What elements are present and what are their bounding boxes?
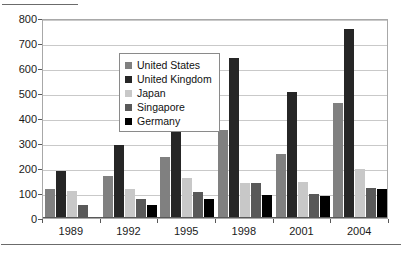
bar	[45, 189, 55, 218]
y-axis-tick-label: 600	[3, 64, 37, 75]
gridline	[43, 20, 387, 21]
bar	[320, 196, 330, 218]
legend-swatch-icon	[125, 62, 132, 69]
x-axis-tick-label: 1989	[48, 226, 94, 237]
bar	[240, 183, 250, 218]
legend-item-label: Germany	[137, 116, 180, 127]
bar	[298, 182, 308, 219]
chart-legend: United StatesUnited KingdomJapanSingapor…	[119, 53, 220, 132]
x-axis-tick-label: 1995	[163, 226, 209, 237]
x-axis-tick-label: 2001	[279, 226, 325, 237]
legend-swatch-icon	[125, 90, 132, 97]
x-axis-tick-label: 1992	[106, 226, 152, 237]
plot-area: United StatesUnited KingdomJapanSingapor…	[42, 19, 388, 219]
bar	[262, 195, 272, 218]
y-axis-tick-label: 500	[3, 89, 37, 100]
legend-item-label: Singapore	[137, 102, 185, 113]
bar	[125, 189, 135, 219]
bar	[147, 205, 157, 219]
bar	[182, 178, 192, 218]
legend-item: Singapore	[125, 100, 215, 114]
x-axis-tick-mark	[388, 219, 389, 223]
chart-figure: United StatesUnited KingdomJapanSingapor…	[0, 0, 403, 255]
legend-swatch-icon	[125, 104, 132, 111]
gridline	[43, 45, 387, 46]
bar	[218, 130, 228, 218]
bar	[366, 188, 376, 218]
y-axis-tick-mark	[38, 194, 42, 195]
bar	[204, 199, 214, 218]
y-axis-tick-label: 200	[3, 164, 37, 175]
bar	[251, 183, 261, 218]
legend-item-label: United States	[137, 60, 200, 71]
bar	[160, 157, 170, 218]
y-axis-tick-mark	[38, 94, 42, 95]
bar	[229, 58, 239, 218]
bar	[136, 199, 146, 218]
bar	[333, 103, 343, 218]
y-axis-tick-mark	[38, 169, 42, 170]
y-axis-tick-mark	[38, 19, 42, 20]
legend-swatch-icon	[125, 118, 132, 125]
bar	[309, 194, 319, 218]
y-axis-tick-mark	[38, 69, 42, 70]
bar	[103, 176, 113, 218]
y-axis-tick-label: 300	[3, 139, 37, 150]
legend-item-label: Japan	[137, 88, 166, 99]
top-divider-rule	[2, 4, 78, 5]
x-axis-tick-mark	[330, 219, 331, 223]
y-axis-tick-label: 100	[3, 189, 37, 200]
y-axis-tick-mark	[38, 44, 42, 45]
legend-swatch-icon	[125, 76, 132, 83]
legend-item: Germany	[125, 114, 215, 128]
bar	[114, 145, 124, 218]
bar	[276, 154, 286, 218]
legend-item-label: United Kingdom	[137, 74, 212, 85]
y-axis-tick-label: 700	[3, 39, 37, 50]
bottom-divider-rule	[1, 244, 401, 245]
y-axis-tick-label: 800	[3, 14, 37, 25]
bar	[56, 171, 66, 218]
x-axis-tick-mark	[157, 219, 158, 223]
bar	[344, 29, 354, 218]
bar	[78, 205, 88, 218]
bar	[287, 92, 297, 218]
x-axis-tick-mark	[42, 219, 43, 223]
x-axis-tick-mark	[215, 219, 216, 223]
legend-item: Japan	[125, 86, 215, 100]
x-axis-tick-mark	[273, 219, 274, 223]
x-axis-tick-label: 1998	[221, 226, 267, 237]
y-axis-tick-label: 400	[3, 114, 37, 125]
y-axis-tick-mark	[38, 119, 42, 120]
y-axis-tick-label: 0	[3, 214, 37, 225]
bar	[67, 191, 77, 219]
x-axis-tick-mark	[100, 219, 101, 223]
bar	[355, 169, 365, 218]
bar	[377, 189, 387, 218]
legend-item: United States	[125, 58, 215, 72]
x-axis-tick-label: 2004	[336, 226, 382, 237]
bar	[193, 192, 203, 218]
y-axis-tick-mark	[38, 144, 42, 145]
x-axis-baseline	[43, 217, 387, 218]
legend-item: United Kingdom	[125, 72, 215, 86]
